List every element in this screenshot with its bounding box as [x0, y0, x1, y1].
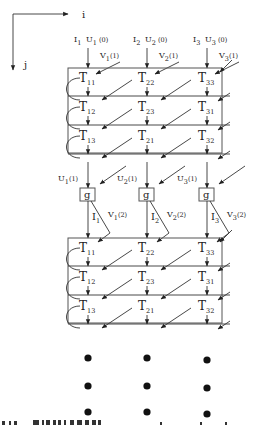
- block2-node-T33: T33: [198, 241, 214, 257]
- block2-I-label-1: I1: [92, 211, 100, 225]
- block1-diagonal-arrow: [102, 80, 132, 100]
- block1-node-T21: T21: [138, 129, 154, 145]
- block1-edge-diagonal-arrow: [218, 93, 230, 101]
- block2-V-label-2: V2(2): [166, 210, 187, 222]
- input-V-label-3: V3(1): [218, 51, 239, 63]
- block1-node-T12: T12: [79, 100, 95, 116]
- g-node-label-3: g: [203, 189, 210, 200]
- cropped-caption-glyphs: [0, 418, 265, 425]
- block1-diagonal-arrow: [161, 138, 191, 158]
- input-I-label-1: I1: [74, 35, 81, 47]
- block1-edge-diagonal-arrow: [218, 151, 230, 159]
- output-U-label-1: U1(1): [58, 174, 79, 186]
- input-V-label-2: V2(1): [158, 51, 179, 63]
- block2-diagonal-arrow: [161, 308, 191, 328]
- output-diagonal-arrow-3: [219, 166, 245, 184]
- g-node-label-1: g: [84, 189, 91, 200]
- block1-feedback-loop: [67, 107, 81, 129]
- block2-diagonal-arrow: [161, 279, 191, 299]
- continuation-dot: [143, 382, 150, 389]
- diagram-body: I1U1 (0)V1(1)I2U2 (0)V2(1)I3U3 (0)V3(1)T…: [58, 35, 247, 418]
- continuation-dot: [203, 356, 210, 363]
- block1-edge-diagonal-arrow: [218, 122, 230, 130]
- input-V-label-1: V1(1): [99, 51, 120, 63]
- block2-feedback-loop: [67, 277, 81, 299]
- input-I-label-3: I3: [193, 35, 200, 47]
- input-U-label-2: U2 (0): [145, 35, 168, 47]
- block2-node-T23: T23: [138, 270, 154, 286]
- block2-diagonal-arrow: [102, 308, 132, 328]
- block2-edge-diagonal-arrow: [218, 292, 230, 300]
- continuation-dot: [203, 384, 210, 391]
- continuation-dot: [143, 354, 150, 361]
- block2-corner-entry-arrow: [220, 230, 232, 242]
- continuation-dot: [203, 410, 210, 417]
- continuation-dot: [84, 354, 91, 361]
- j-axis-label: j: [23, 59, 27, 70]
- block2-feedback-loop: [67, 248, 81, 270]
- block1-node-T32: T32: [198, 129, 214, 145]
- input-U-label-1: U1 (0): [86, 35, 109, 47]
- i-axis-label: i: [82, 9, 85, 20]
- block2-edge-diagonal-arrow: [218, 263, 230, 271]
- block1-node-T31: T31: [198, 100, 214, 116]
- block1-feedback-loop: [67, 78, 81, 100]
- block2-edge-diagonal-arrow: [218, 321, 230, 329]
- block2-node-T21: T21: [138, 299, 154, 315]
- block1-diagonal-arrow: [102, 138, 132, 158]
- block2-diagonal-arrow: [161, 250, 191, 270]
- block2-V-label-1: V1(2): [107, 210, 128, 222]
- caption-fragment: [0, 418, 265, 425]
- systolic-array-diagram: i j I1U1 (0)V1(1)I2U2 (0)V2(1)I3U3 (0)V3…: [0, 0, 265, 425]
- input-U-label-3: U3 (0): [205, 35, 228, 47]
- continuation-dot: [84, 408, 91, 415]
- block2-diagonal-arrow: [102, 279, 132, 299]
- block1-node-T11: T11: [79, 71, 95, 87]
- block1-node-T33: T33: [198, 71, 214, 87]
- continuation-dot: [84, 382, 91, 389]
- block2-node-T31: T31: [198, 270, 214, 286]
- block2-V-label-3: V3(2): [226, 210, 247, 222]
- block1-node-T23: T23: [138, 100, 154, 116]
- block2-diagonal-arrow: [102, 250, 132, 270]
- input-I-label-2: I2: [133, 35, 140, 47]
- block2-node-T12: T12: [79, 270, 95, 286]
- block2-node-T11: T11: [79, 241, 95, 257]
- output-U-label-3: U3(1): [177, 174, 198, 186]
- block2-feedback-loop: [67, 306, 81, 328]
- block1-diagonal-arrow: [161, 80, 191, 100]
- block2-node-T13: T13: [79, 299, 95, 315]
- output-U-label-2: U2(1): [117, 174, 138, 186]
- block2-node-T22: T22: [138, 241, 154, 257]
- block1-diagonal-arrow: [161, 109, 191, 129]
- block1-node-T13: T13: [79, 129, 95, 145]
- block1-diagonal-arrow: [102, 109, 132, 129]
- g-node-label-2: g: [143, 189, 150, 200]
- block2-node-T32: T32: [198, 299, 214, 315]
- block1-node-T22: T22: [138, 71, 154, 87]
- continuation-dot: [143, 408, 150, 415]
- block1-feedback-loop: [67, 136, 81, 158]
- block2-I-label-3: I3: [211, 211, 219, 225]
- block2-I-label-2: I2: [151, 211, 159, 225]
